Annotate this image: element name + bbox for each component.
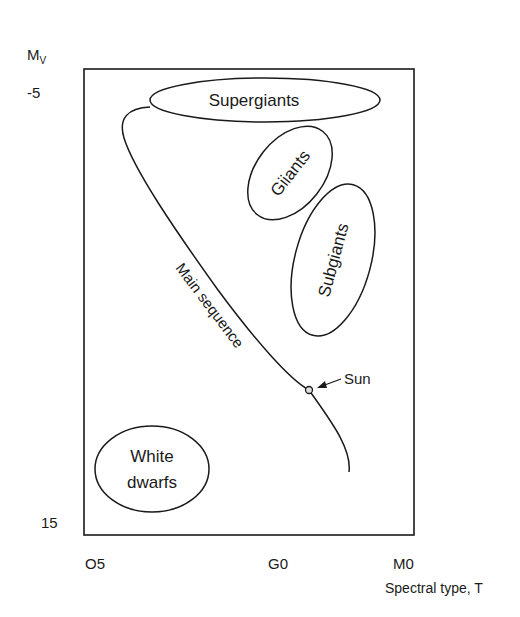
white-dwarfs-region — [95, 426, 209, 512]
x-axis-label: Spectral type, T — [385, 580, 483, 596]
supergiants-label: Supergiants — [209, 91, 300, 110]
x-tick-o5: O5 — [85, 555, 105, 572]
giants-region: Giiants — [231, 110, 350, 235]
x-tick-g0: G0 — [268, 555, 288, 572]
x-tick-m0: M0 — [393, 555, 414, 572]
white-dwarfs-label-line2: dwarfs — [127, 473, 177, 492]
sun-marker — [306, 387, 313, 394]
white-dwarfs-label-line1: White — [130, 447, 173, 466]
y-axis-label: MV — [27, 46, 47, 66]
y-tick-minus5: -5 — [27, 84, 40, 101]
y-tick-15: 15 — [41, 514, 58, 531]
subgiants-label: Subgiants — [315, 221, 353, 299]
main-sequence-label: Main sequence — [173, 260, 248, 351]
giants-label: Giiants — [267, 147, 315, 200]
sun-label: Sun — [344, 370, 371, 387]
arrow-head-icon — [317, 381, 327, 388]
hr-diagram: MV -5 15 O5 G0 M0 Spectral type, T Super… — [0, 0, 520, 617]
subgiants-region: Subgiants — [276, 175, 390, 345]
